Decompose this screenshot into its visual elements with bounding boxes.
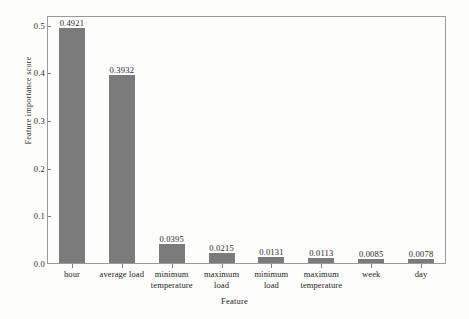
plot-area bbox=[47, 16, 446, 264]
bar-value-label: 0.0113 bbox=[305, 248, 337, 258]
bar-rect bbox=[358, 259, 384, 263]
bar-value-label: 0.3932 bbox=[106, 65, 138, 75]
x-tick-mark bbox=[271, 264, 272, 268]
x-axis-title: Feature bbox=[0, 296, 469, 306]
figure-caption-partial bbox=[0, 310, 469, 319]
y-tick-label: 0.5 bbox=[0, 21, 45, 31]
bar bbox=[109, 15, 135, 263]
x-category-label: hour bbox=[47, 269, 97, 280]
bar-value-label: 0.0395 bbox=[156, 234, 188, 244]
y-axis-title: Feature importance score bbox=[24, 26, 33, 176]
bar-rect bbox=[408, 259, 434, 263]
y-tick-label: 0.0 bbox=[0, 259, 45, 269]
bar-value-label: 0.4921 bbox=[56, 18, 88, 28]
bar-rect bbox=[258, 257, 284, 263]
bar bbox=[358, 15, 384, 263]
x-tick-mark bbox=[421, 264, 422, 268]
x-tick-mark bbox=[321, 264, 322, 268]
y-tick-label: 0.1 bbox=[0, 211, 45, 221]
bar-rect bbox=[159, 244, 185, 263]
bar-value-label: 0.0215 bbox=[206, 243, 238, 253]
x-category-label: week bbox=[346, 269, 396, 280]
y-tick-label: 0.2 bbox=[0, 164, 45, 174]
x-tick-mark bbox=[371, 264, 372, 268]
x-tick-mark bbox=[222, 264, 223, 268]
bar bbox=[209, 15, 235, 263]
bar-value-label: 0.0085 bbox=[355, 249, 387, 259]
x-tick-mark bbox=[172, 264, 173, 268]
figure-bar-chart: Feature importance score 0.00.10.20.30.4… bbox=[0, 0, 469, 319]
x-category-label: average load bbox=[97, 269, 147, 280]
y-tick-label: 0.4 bbox=[0, 68, 45, 78]
bar bbox=[59, 15, 85, 263]
x-category-label: day bbox=[396, 269, 446, 280]
bar bbox=[308, 15, 334, 263]
bar bbox=[408, 15, 434, 263]
x-category-label: minimumtemperature bbox=[147, 269, 197, 291]
bar-rect bbox=[59, 28, 85, 263]
bar-value-label: 0.0131 bbox=[255, 247, 287, 257]
bar-rect bbox=[209, 253, 235, 263]
x-tick-mark bbox=[122, 264, 123, 268]
bar bbox=[258, 15, 284, 263]
bar bbox=[159, 15, 185, 263]
bar-rect bbox=[109, 75, 135, 263]
x-category-label: minimumload bbox=[247, 269, 297, 291]
bar-rect bbox=[308, 258, 334, 263]
x-tick-mark bbox=[72, 264, 73, 268]
x-category-label: maximumload bbox=[197, 269, 247, 291]
bar-value-label: 0.0078 bbox=[405, 249, 437, 259]
y-tick-label: 0.3 bbox=[0, 116, 45, 126]
x-category-label: maximumtemperature bbox=[296, 269, 346, 291]
